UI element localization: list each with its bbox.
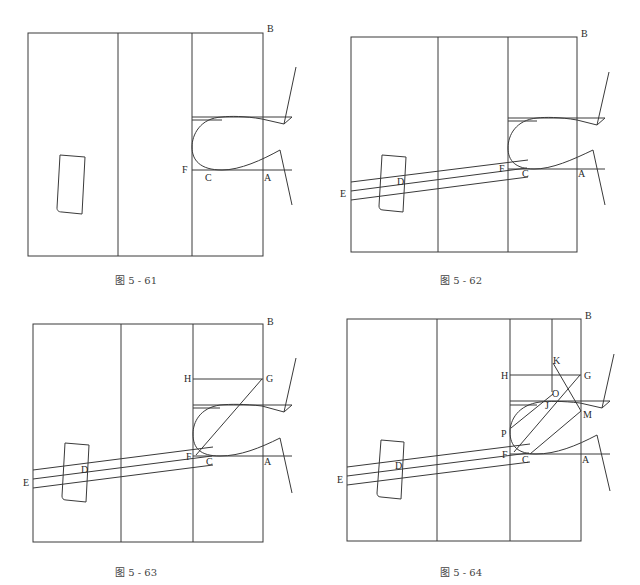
label-o: O [552, 388, 559, 399]
label-e: E [23, 477, 29, 488]
label-c: C [522, 454, 529, 465]
label-f: F [502, 449, 508, 460]
label-f: F [182, 164, 188, 175]
armhole-curve [510, 401, 610, 491]
label-b: B [585, 310, 592, 321]
figure-5-61: B F C A [28, 23, 296, 256]
shoulder-line [284, 358, 296, 412]
label-d: D [395, 460, 402, 471]
label-a: A [578, 168, 586, 179]
figure-5-64: B K H G O J M P F C A D E [337, 310, 614, 541]
figure-5-62: B F C A D E [340, 28, 609, 252]
label-d: D [397, 176, 404, 187]
label-e: E [337, 474, 343, 485]
line-fg [514, 375, 580, 452]
armhole-curve [508, 117, 605, 205]
label-f: F [186, 451, 192, 462]
label-b: B [267, 316, 274, 327]
shoulder-line [284, 67, 296, 124]
label-c: C [205, 172, 212, 183]
line-cm [530, 411, 581, 454]
outer-frame [33, 324, 263, 542]
caption-fig-5-61: 图 5 - 61 [115, 272, 157, 287]
label-h: H [184, 373, 191, 384]
slant-line-lower [347, 462, 530, 485]
label-c: C [522, 168, 529, 179]
pocket-shape [57, 155, 85, 214]
label-c: C [206, 456, 213, 467]
caption-fig-5-62: 图 5 - 62 [440, 272, 482, 287]
line-fg [196, 379, 262, 455]
label-d: D [81, 464, 88, 475]
line-km [553, 363, 581, 411]
outer-frame [28, 33, 263, 256]
label-k: K [553, 355, 561, 366]
label-b: B [581, 28, 588, 39]
label-a: A [264, 172, 272, 183]
label-h: H [501, 370, 508, 381]
diagram-canvas: B F C A B F C A D E [0, 0, 640, 585]
label-m: M [583, 409, 592, 420]
shoulder-line [602, 354, 614, 408]
slant-line-lower [33, 465, 213, 488]
armhole-curve [192, 116, 292, 205]
label-p: P [501, 428, 507, 439]
caption-fig-5-64: 图 5 - 64 [440, 564, 482, 579]
caption-fig-5-63: 图 5 - 63 [115, 564, 157, 579]
label-e: E [340, 188, 346, 199]
label-a: A [264, 456, 272, 467]
label-f: F [499, 163, 505, 174]
outer-frame [347, 319, 581, 541]
figure-5-63: B H G F C A D E [23, 316, 296, 542]
slant-line-lower [351, 177, 528, 200]
label-g: G [584, 370, 591, 381]
shoulder-line [597, 72, 609, 125]
label-b: B [267, 23, 274, 34]
outer-frame [351, 37, 577, 252]
label-g: G [266, 373, 273, 384]
armhole-curve [193, 404, 292, 493]
label-j: J [545, 400, 549, 411]
label-a: A [582, 454, 590, 465]
